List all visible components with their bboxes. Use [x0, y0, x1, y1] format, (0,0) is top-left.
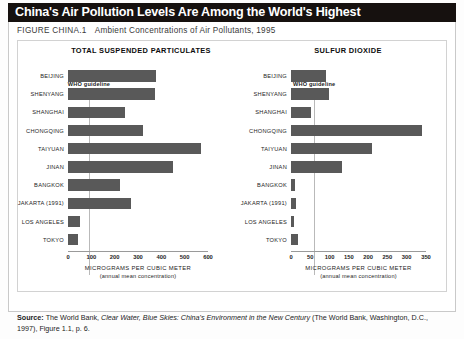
bar-row: TAIYUAN [291, 140, 426, 158]
bar-row: CHONGQING [68, 122, 208, 140]
bar-rows-right: BEIJINGSHENYANGSHANGHAICHONGQINGTAIYUANJ… [291, 67, 426, 249]
charts-panel: TOTAL SUSPENDED PARTICULATES WHO guideli… [17, 40, 447, 292]
source-label: Source: [17, 313, 44, 322]
bar-row: LOS ANGELES [68, 213, 208, 231]
x-axis-right [291, 251, 426, 252]
x-tick-label: 600 [203, 254, 213, 260]
bar [291, 107, 311, 118]
bar-row: BANGKOK [68, 176, 208, 194]
bar [291, 143, 372, 154]
bar-row: SHANGHAI [68, 103, 208, 121]
bar [291, 88, 329, 99]
x-tick-label: 500 [180, 254, 190, 260]
x-tick-label: 100 [86, 254, 96, 260]
bar-row: TOKYO [68, 231, 208, 249]
source-text-1: The World Bank, [46, 313, 99, 322]
bar [68, 161, 173, 172]
bar [68, 234, 78, 245]
x-tick-label: 100 [325, 254, 335, 260]
chart-title-left: TOTAL SUSPENDED PARTICULATES [20, 46, 238, 55]
bar [68, 107, 125, 118]
bar-category-label: LOS ANGELES [245, 219, 287, 225]
bar-category-label: JINAN [46, 164, 64, 170]
x-tick-label: 0 [66, 254, 69, 260]
bar [68, 143, 201, 154]
x-tick-label: 0 [289, 254, 292, 260]
bar-category-label: JAKARTA (1991) [18, 200, 64, 206]
figure-number: FIGURE CHINA.1 [17, 26, 87, 35]
bar-row: SHENYANG [68, 85, 208, 103]
source-italic-title: Clear Water, Blue Skies: China's Environ… [101, 313, 310, 322]
bar-category-label: BEIJING [263, 73, 287, 79]
bar-category-label: TOKYO [266, 237, 287, 243]
bar-row: JINAN [68, 158, 208, 176]
bar-category-label: SHANGHAI [255, 109, 287, 115]
bar-category-label: CHONGQING [26, 128, 64, 134]
bar-category-label: BEIJING [40, 73, 64, 79]
x-tick-label: 350 [421, 254, 431, 260]
plot-area-left: WHO guideline BEIJINGSHENYANGSHANGHAICHO… [68, 67, 208, 249]
bar-row: JAKARTA (1991) [68, 194, 208, 212]
bar-row: BEIJING [291, 67, 426, 85]
bar-category-label: TOKYO [43, 237, 64, 243]
bar-category-label: TAIYUAN [38, 146, 64, 152]
bar-rows-left: BEIJINGSHENYANGSHANGHAICHONGQINGTAIYUANJ… [68, 67, 208, 249]
bar-row: SHENYANG [291, 85, 426, 103]
bar-row: TOKYO [291, 231, 426, 249]
x-axis-title-right: MICROGRAMS PER CUBIC METER [291, 265, 426, 271]
bar [291, 216, 294, 227]
figure-caption: FIGURE CHINA.1Ambient Concentrations of … [17, 26, 276, 35]
bar-category-label: JINAN [269, 164, 287, 170]
x-tick-label: 300 [402, 254, 412, 260]
x-tick-label: 400 [156, 254, 166, 260]
figure-page: China's Air Pollution Levels Are Among t… [0, 0, 464, 339]
bar-row: JAKARTA (1991) [291, 194, 426, 212]
x-tick-label: 300 [133, 254, 143, 260]
page-title: China's Air Pollution Levels Are Among t… [8, 3, 456, 22]
bar [68, 179, 120, 190]
x-tick-label: 150 [344, 254, 354, 260]
bar [291, 198, 296, 209]
x-axis-subtitle-left: (annual mean concentration) [68, 273, 208, 279]
chart-total-suspended-particulates: TOTAL SUSPENDED PARTICULATES WHO guideli… [20, 41, 238, 293]
bar [68, 216, 80, 227]
bar-category-label: SHENYANG [254, 91, 288, 97]
bar [68, 125, 143, 136]
bar [68, 70, 156, 81]
bar-row: LOS ANGELES [291, 213, 426, 231]
figure-caption-text: Ambient Concentrations of Air Pollutants… [95, 26, 276, 35]
bar-category-label: BANGKOK [257, 182, 287, 188]
x-tick-label: 250 [383, 254, 393, 260]
bar [291, 234, 298, 245]
bar [291, 70, 326, 81]
x-axis-subtitle-right: (annual mean concentration) [291, 273, 426, 279]
bar-row: BANGKOK [291, 176, 426, 194]
source-note: Source: The World Bank, Clear Water, Blu… [8, 312, 456, 337]
x-tick-label: 200 [110, 254, 120, 260]
bar-row: TAIYUAN [68, 140, 208, 158]
bar-category-label: SHENYANG [31, 91, 65, 97]
bar-row: JINAN [291, 158, 426, 176]
x-axis-title-left: MICROGRAMS PER CUBIC METER [68, 265, 208, 271]
bar-category-label: BANGKOK [34, 182, 64, 188]
chart-title-right: SULFUR DIOXIDE [240, 46, 446, 55]
bar [291, 179, 295, 190]
bar [68, 198, 131, 209]
bar-category-label: CHONGQING [249, 128, 287, 134]
bar [291, 125, 422, 136]
bar-category-label: TAIYUAN [261, 146, 287, 152]
bar-category-label: LOS ANGELES [22, 219, 64, 225]
bar-category-label: JAKARTA (1991) [241, 200, 287, 206]
bar-category-label: SHANGHAI [32, 109, 64, 115]
x-tick-label: 50 [307, 254, 313, 260]
bar-row: BEIJING [68, 67, 208, 85]
x-tick-label: 200 [363, 254, 373, 260]
chart-sulfur-dioxide: SULFUR DIOXIDE WHO guideline BEIJINGSHEN… [240, 41, 446, 293]
bar [291, 161, 342, 172]
bar-row: SHANGHAI [291, 103, 426, 121]
bar [68, 88, 155, 99]
plot-area-right: WHO guideline BEIJINGSHENYANGSHANGHAICHO… [291, 67, 426, 249]
bar-row: CHONGQING [291, 122, 426, 140]
x-axis-left [68, 251, 208, 252]
